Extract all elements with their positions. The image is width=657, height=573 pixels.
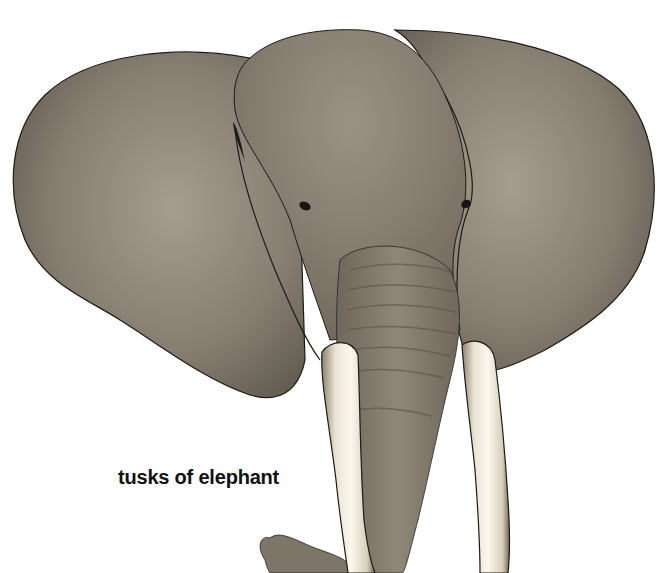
elephant-illustration xyxy=(0,0,657,573)
right-tusk xyxy=(462,341,510,573)
caption-label: tusks of elephant xyxy=(118,466,279,489)
